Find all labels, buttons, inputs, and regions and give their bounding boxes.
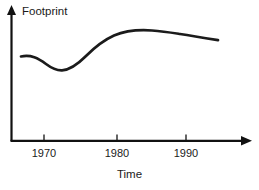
x-tick-label-1990: 1990 — [163, 147, 209, 160]
y-axis-title: Footprint — [22, 5, 67, 18]
arrow-up-icon — [7, 5, 16, 15]
x-tick-label-1970: 1970 — [21, 147, 67, 160]
x-axis-title: Time — [0, 168, 259, 181]
footprint-vs-time-chart: Footprint 1970 1980 1990 Time — [0, 0, 259, 190]
x-tick-label-1980: 1980 — [94, 147, 140, 160]
chart-canvas — [0, 0, 259, 190]
arrow-right-icon — [241, 136, 252, 146]
footprint-curve — [21, 30, 218, 70]
